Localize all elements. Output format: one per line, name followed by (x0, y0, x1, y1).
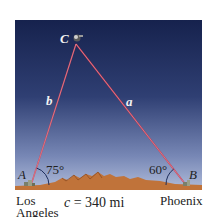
side-label-a: a (126, 95, 133, 108)
city-label-angeles: Angeles (16, 206, 59, 217)
vertex-label-a: A (18, 168, 26, 181)
diagram-canvas (0, 0, 215, 217)
vertex-label-c: C (60, 32, 69, 45)
angle-label-b: 60° (149, 163, 167, 176)
triangle-diagram: C b a A 75° 60° B Los Angeles c = 340 mi… (0, 0, 215, 217)
sky-background (15, 20, 202, 190)
angle-label-a: 75° (46, 163, 64, 176)
side-label-c: c = 340 mi (64, 196, 124, 209)
vertex-label-b: B (189, 168, 197, 181)
city-label-phoenix: Phoenix (160, 194, 203, 207)
side-label-b: b (46, 94, 53, 107)
